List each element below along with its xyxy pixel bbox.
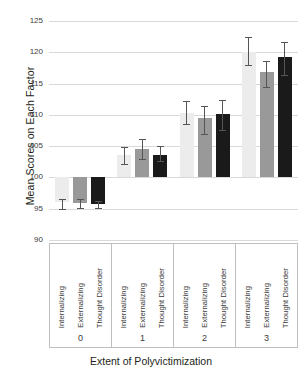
bar-0-thought-disorder bbox=[91, 21, 105, 240]
error-bar-cap-bottom bbox=[157, 161, 164, 162]
bar-rect bbox=[260, 72, 274, 177]
bar-1-thought-disorder bbox=[153, 21, 167, 240]
error-bar-cap-top bbox=[157, 146, 164, 147]
subcategory-labels: InternalizingExternalizingThought Disord… bbox=[174, 244, 235, 329]
error-bar-cap-top bbox=[245, 37, 252, 38]
y-axis-title: Mean Scores on Each Factor bbox=[24, 46, 36, 226]
category-group-1: InternalizingExternalizingThought Disord… bbox=[112, 244, 174, 347]
plot-area: 9095100105110115120125 bbox=[49, 21, 298, 240]
bar-0-internalizing bbox=[55, 21, 69, 240]
error-bar bbox=[186, 101, 187, 124]
error-bar bbox=[204, 106, 205, 134]
error-bar-cap-top bbox=[183, 101, 190, 102]
bar-2-thought-disorder bbox=[216, 21, 230, 240]
error-bar-cap-top bbox=[281, 42, 288, 43]
subcategory-label-externalizing: Externalizing bbox=[201, 283, 209, 328]
error-bar-cap-bottom bbox=[245, 65, 252, 66]
category-table: InternalizingExternalizingThought Disord… bbox=[49, 243, 298, 348]
error-bar-cap-top bbox=[201, 106, 208, 107]
bar-0-externalizing bbox=[73, 21, 87, 240]
bar-3-externalizing bbox=[260, 21, 274, 240]
category-group-0: InternalizingExternalizingThought Disord… bbox=[50, 244, 112, 347]
error-bar-cap-top bbox=[59, 199, 66, 200]
bar-1-externalizing bbox=[135, 21, 149, 240]
error-bar bbox=[284, 42, 285, 75]
bar-2-internalizing bbox=[180, 21, 194, 240]
subcategory-label-internalizing: Internalizing bbox=[244, 286, 252, 328]
category-group-2: InternalizingExternalizingThought Disord… bbox=[174, 244, 236, 347]
bar-series-container bbox=[49, 21, 298, 240]
subcategory-label-internalizing: Internalizing bbox=[120, 286, 128, 328]
category-number: 3 bbox=[236, 329, 297, 347]
error-bar-cap-bottom bbox=[121, 164, 128, 165]
error-bar-cap-top bbox=[77, 199, 84, 200]
error-bar-cap-top bbox=[139, 139, 146, 140]
subcategory-label-thought-disorder: Thought Disorder bbox=[158, 268, 166, 328]
error-bar-cap-top bbox=[95, 201, 102, 202]
bar-3-internalizing bbox=[242, 21, 256, 240]
error-bar-cap-bottom bbox=[59, 209, 66, 210]
error-bar bbox=[222, 100, 223, 129]
y-axis-tick-label: 90 bbox=[17, 236, 43, 244]
error-bar bbox=[62, 199, 63, 209]
error-bar bbox=[98, 201, 99, 209]
error-bar-cap-top bbox=[263, 61, 270, 62]
error-bar-cap-bottom bbox=[95, 208, 102, 209]
subcategory-label-thought-disorder: Thought Disorder bbox=[282, 268, 290, 328]
gridline bbox=[49, 240, 298, 241]
error-bar-cap-bottom bbox=[219, 130, 226, 131]
category-number: 1 bbox=[112, 329, 173, 347]
error-bar bbox=[142, 139, 143, 160]
chart-figure: Mean Scores on Each Factor 9095100105110… bbox=[0, 0, 302, 378]
y-axis-tick-label: 125 bbox=[17, 17, 43, 25]
y-axis-tick-label: 95 bbox=[17, 205, 43, 213]
error-bar-cap-bottom bbox=[281, 75, 288, 76]
error-bar-cap-bottom bbox=[263, 87, 270, 88]
category-number: 2 bbox=[174, 329, 235, 347]
error-bar-cap-top bbox=[121, 147, 128, 148]
error-bar bbox=[124, 147, 125, 164]
error-bar-cap-top bbox=[219, 100, 226, 101]
subcategory-label-externalizing: Externalizing bbox=[77, 283, 85, 328]
error-bar-cap-bottom bbox=[77, 208, 84, 209]
subcategory-label-thought-disorder: Thought Disorder bbox=[220, 268, 228, 328]
error-bar bbox=[80, 199, 81, 208]
y-axis-tick-label: 105 bbox=[17, 142, 43, 150]
error-bar-cap-bottom bbox=[139, 159, 146, 160]
bar-rect bbox=[242, 52, 256, 177]
category-number: 0 bbox=[50, 329, 111, 347]
subcategory-labels: InternalizingExternalizingThought Disord… bbox=[112, 244, 173, 329]
subcategory-label-internalizing: Internalizing bbox=[182, 286, 190, 328]
error-bar-cap-bottom bbox=[201, 134, 208, 135]
error-bar bbox=[266, 61, 267, 87]
x-axis-title: Extent of Polyvictimization bbox=[0, 355, 302, 367]
subcategory-label-thought-disorder: Thought Disorder bbox=[96, 268, 104, 328]
subcategory-labels: InternalizingExternalizingThought Disord… bbox=[236, 244, 297, 329]
category-group-3: InternalizingExternalizingThought Disord… bbox=[236, 244, 297, 347]
subcategory-label-internalizing: Internalizing bbox=[58, 286, 66, 328]
bar-3-thought-disorder bbox=[278, 21, 292, 240]
y-axis-tick-label: 115 bbox=[17, 80, 43, 88]
error-bar bbox=[160, 146, 161, 161]
subcategory-label-externalizing: Externalizing bbox=[139, 283, 147, 328]
y-axis-tick-label: 110 bbox=[17, 111, 43, 119]
error-bar bbox=[248, 37, 249, 65]
y-axis-tick-label: 100 bbox=[17, 173, 43, 181]
bar-1-internalizing bbox=[117, 21, 131, 240]
y-axis-tick-label: 120 bbox=[17, 48, 43, 56]
bar-2-externalizing bbox=[198, 21, 212, 240]
error-bar-cap-bottom bbox=[183, 124, 190, 125]
subcategory-label-externalizing: Externalizing bbox=[263, 283, 271, 328]
subcategory-labels: InternalizingExternalizingThought Disord… bbox=[50, 244, 111, 329]
